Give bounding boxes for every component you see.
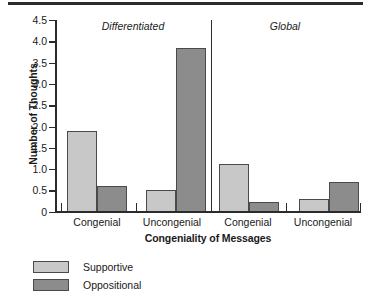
bar-global-uncongenial-oppositional: [329, 182, 359, 212]
y-tick-4.0: [49, 41, 55, 42]
legend-label-supportive: Supportive: [83, 261, 133, 273]
y-tick-label-3.0: 3.0: [7, 79, 47, 89]
bar-chart: Number of Thoughts 4.5 4.0 3.5 3.0 2.5 2…: [0, 0, 369, 305]
y-tick-label-2.0: 2.0: [7, 122, 47, 132]
y-tick-0.5: [49, 190, 55, 191]
bar-global-congenial-supportive: [219, 164, 249, 212]
y-tick-2.5: [49, 105, 55, 106]
y-tick-1.0: [49, 169, 55, 170]
y-tick-label-1.0: 1.0: [7, 164, 47, 174]
bar-global-uncongenial-supportive: [299, 199, 329, 212]
x-axis-title: Congeniality of Messages: [55, 232, 361, 244]
y-axis-line: [55, 20, 57, 212]
bar-differentiated-uncongenial-oppositional: [176, 48, 206, 212]
y-tick-1.5: [49, 148, 55, 149]
x-tick-label-global-uncongenial: Uncongenial: [273, 216, 369, 228]
y-tick-3.5: [49, 63, 55, 64]
legend-item-oppositional: Oppositional: [33, 276, 141, 294]
legend-swatch-supportive: [33, 261, 69, 273]
x-tick-3: [286, 203, 287, 211]
legend-swatch-oppositional: [33, 279, 69, 291]
y-tick-label-4.0: 4.0: [7, 36, 47, 46]
x-tick-2: [211, 203, 212, 211]
bar-differentiated-congenial-supportive: [67, 131, 97, 212]
y-tick-label-0.5: 0.5: [7, 185, 47, 195]
x-tick-0: [61, 203, 62, 211]
panel-label-global: Global: [215, 20, 355, 32]
panel-divider-line: [211, 20, 212, 212]
bar-differentiated-uncongenial-supportive: [146, 190, 176, 211]
x-tick-1: [136, 203, 137, 211]
legend-label-oppositional: Oppositional: [83, 279, 141, 291]
y-tick-4.5: [49, 20, 55, 21]
y-tick-label-1.5: 1.5: [7, 143, 47, 153]
y-tick-label-2.5: 2.5: [7, 100, 47, 110]
x-tick-4: [360, 203, 361, 211]
legend-item-supportive: Supportive: [33, 258, 141, 276]
y-tick-2.0: [49, 127, 55, 128]
panel-label-differentiated: Differentiated: [63, 20, 203, 32]
bar-differentiated-congenial-oppositional: [97, 186, 127, 212]
y-tick-label-4.5: 4.5: [7, 15, 47, 25]
chart-legend: Supportive Oppositional: [33, 258, 141, 294]
x-axis-line: [55, 211, 361, 213]
y-tick-label-3.5: 3.5: [7, 58, 47, 68]
y-tick-label-0: 0: [7, 207, 47, 217]
y-tick-3.0: [49, 84, 55, 85]
